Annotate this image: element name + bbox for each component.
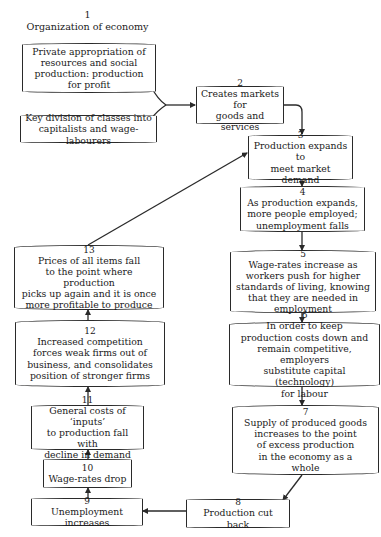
node-text: Supply of produced goods increases to th… bbox=[244, 417, 367, 473]
node-number: 6 bbox=[302, 310, 308, 320]
node-text: Creates markets for goods and services bbox=[201, 88, 279, 133]
node-7-excess-supply: 7 Supply of produced goods increases to … bbox=[232, 405, 379, 475]
node-9-unemployment-increases: 9 Unemployment increases bbox=[31, 498, 143, 526]
node-class-division: Key division of classes into capitalists… bbox=[20, 115, 157, 143]
node-number: 2 bbox=[237, 78, 243, 88]
node-11-input-costs-fall: 11 General costs of ‘inputs’ to producti… bbox=[31, 405, 144, 450]
node-3-production-expands: 3 Production expands to meet market dema… bbox=[248, 135, 353, 180]
node-text: Production cut back bbox=[191, 507, 285, 529]
node-12-increased-competition: 12 Increased competition forces weak fir… bbox=[15, 320, 165, 387]
node-8-production-cut-back: 8 Production cut back bbox=[186, 499, 290, 528]
node-text: General costs of ‘inputs’ to production … bbox=[36, 405, 139, 461]
node-number: 13 bbox=[83, 245, 94, 255]
node-number: 4 bbox=[300, 187, 306, 197]
node-text: Unemployment increases bbox=[36, 506, 138, 528]
node-number: 10 bbox=[82, 463, 93, 473]
node-2-creates-markets: 2 Creates markets for goods and services bbox=[196, 86, 284, 124]
node-text: Increased competition forces weak firms … bbox=[27, 336, 153, 381]
node-text: As production expands, more people emplo… bbox=[247, 197, 358, 231]
node-number: 8 bbox=[235, 497, 241, 507]
node-4-employment-rises: 4 As production expands, more people emp… bbox=[240, 186, 365, 232]
node-10-wage-rates-drop: 10 Wage-rates drop bbox=[43, 459, 132, 488]
node-5-wage-rates-increase: 5 Wage-rates increase as workers push fo… bbox=[230, 250, 376, 313]
node-number: 3 bbox=[298, 130, 304, 140]
node-number: 12 bbox=[84, 326, 95, 336]
node-number: 11 bbox=[82, 395, 93, 405]
node-text: Wage-rates increase as workers push for … bbox=[236, 259, 370, 315]
node-13-prices-fall: 13 Prices of all items fall to the point… bbox=[14, 245, 164, 310]
node-number: 7 bbox=[303, 407, 309, 417]
node-number: 9 bbox=[84, 496, 90, 506]
node-6-substitute-capital: 6 In order to keep production costs down… bbox=[229, 322, 380, 387]
node-text: Prices of all items fall to the point wh… bbox=[19, 255, 159, 311]
node-text: Wage-rates drop bbox=[49, 473, 127, 484]
node-text: Key division of classes into capitalists… bbox=[25, 112, 152, 146]
node-text: In order to keep production costs down a… bbox=[234, 320, 375, 398]
node-number: 5 bbox=[300, 249, 306, 259]
node-text: Production expands to meet market demand bbox=[253, 140, 348, 185]
node-private-appropriation: Private appropriation of resources and s… bbox=[22, 43, 156, 93]
node-text: Private appropriation of resources and s… bbox=[32, 46, 145, 91]
